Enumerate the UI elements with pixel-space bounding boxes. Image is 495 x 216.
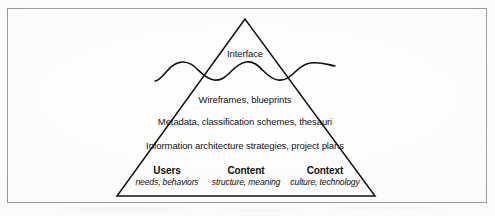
layer-label-metadata: Metadata, classification schemes, thesau…: [158, 116, 332, 127]
pillar-subtitle-content: structure, meaning: [212, 177, 280, 187]
pillar-title-content: Content: [227, 165, 264, 176]
waterline-wave: [155, 62, 335, 81]
apex-label-interface: Interface: [227, 48, 263, 59]
pillar-title-users: Users: [153, 165, 180, 176]
layer-label-ia-strategies: Information architecture strategies, pro…: [146, 140, 344, 151]
water-line-path: [155, 62, 335, 81]
pillar-title-context: Context: [307, 165, 344, 176]
pillar-subtitle-context: culture, technology: [290, 177, 359, 187]
pillar-subtitle-users: needs, behaviors: [135, 177, 198, 187]
figure-root: Interface Wireframes, blueprints Metadat…: [0, 0, 495, 216]
layer-label-wireframes: Wireframes, blueprints: [199, 94, 292, 105]
